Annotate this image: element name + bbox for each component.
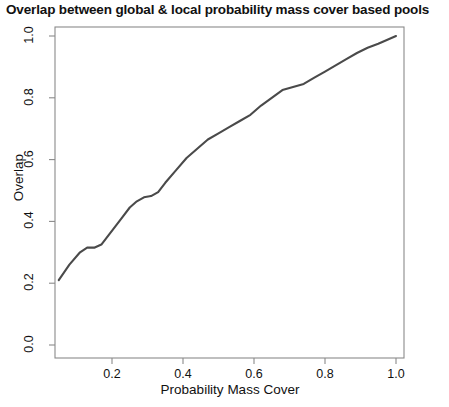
y-tick-label: 1.0	[22, 18, 36, 52]
x-tick-label: 0.4	[166, 367, 200, 381]
y-tick-label: 0.8	[22, 80, 36, 114]
x-tick-label: 0.2	[95, 367, 129, 381]
x-tick-label: 1.0	[379, 367, 413, 381]
plot-canvas	[0, 0, 449, 407]
data-series-line	[59, 36, 396, 280]
y-tick-label: 0.0	[22, 327, 36, 361]
chart-figure: Overlap between global & local probabili…	[0, 0, 449, 407]
y-tick-label: 0.2	[22, 265, 36, 299]
plot-frame	[55, 27, 404, 358]
x-tick-label: 0.6	[237, 367, 271, 381]
y-tick-label: 0.4	[22, 203, 36, 237]
axis-tick-marks	[49, 36, 396, 364]
y-tick-label: 0.6	[22, 142, 36, 176]
x-tick-label: 0.8	[308, 367, 342, 381]
overlap-curve	[59, 36, 396, 280]
